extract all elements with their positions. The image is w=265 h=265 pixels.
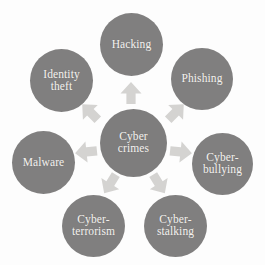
node-cyber-bullying[interactable]: Cyber- bullying [192, 133, 253, 195]
arrow-to-cyber-bullying-icon [169, 140, 193, 163]
node-cyber-stalking-line1: Cyber- [159, 213, 191, 225]
node-identity-theft[interactable]: Identity theft [30, 49, 93, 112]
node-malware[interactable]: Malware [12, 131, 75, 194]
node-cyber-crimes-line1: Cyber [119, 130, 148, 142]
node-identity-theft-line2: theft [51, 80, 73, 92]
node-cyber-terrorism-line2: terrorism [72, 225, 115, 237]
arrow-to-hacking-icon [121, 82, 142, 104]
node-identity-theft-line1: Identity [43, 68, 80, 80]
node-hacking-label: Hacking [109, 39, 155, 51]
node-cyber-stalking-line2: stalking [157, 225, 194, 237]
node-phishing[interactable]: Phishing [171, 48, 233, 110]
node-cyber-terrorism[interactable]: Cyber- terrorism [62, 195, 125, 257]
node-cyber-bullying-line1: Cyber- [206, 151, 238, 163]
node-malware-label: Malware [20, 157, 68, 169]
node-cyber-crimes-center[interactable]: Cyber crimes [100, 109, 167, 177]
node-hacking[interactable]: Hacking [100, 13, 163, 76]
node-cyber-stalking-label: Cyber- stalking [154, 214, 197, 238]
node-identity-theft-label: Identity theft [40, 69, 83, 93]
cyber-crimes-diagram: Hacking Phishing Cyber- bullying Cyber- … [0, 0, 265, 265]
arrow-to-cyber-stalking-icon [144, 169, 173, 199]
node-cyber-bullying-label: Cyber- bullying [200, 152, 245, 176]
node-cyber-crimes-line2: crimes [118, 142, 149, 154]
node-cyber-bullying-line2: bullying [203, 163, 242, 175]
node-cyber-terrorism-label: Cyber- terrorism [69, 214, 118, 238]
node-cyber-stalking[interactable]: Cyber- stalking [144, 195, 207, 257]
node-cyber-crimes-label: Cyber crimes [115, 131, 152, 155]
node-cyber-terrorism-line1: Cyber- [77, 213, 109, 225]
node-phishing-label: Phishing [178, 73, 225, 85]
arrow-to-malware-icon [74, 140, 98, 163]
